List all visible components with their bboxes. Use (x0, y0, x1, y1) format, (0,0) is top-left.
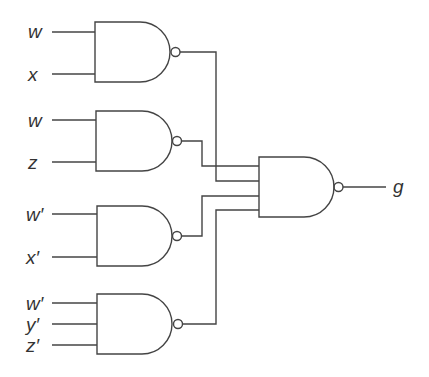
nand-gate-2 (52, 111, 259, 171)
nand-gate-4 (52, 210, 259, 354)
input-label-y-prime: y′ (26, 315, 39, 334)
input-label-w1: w (28, 22, 42, 41)
input-label-z-prime: z′ (26, 336, 39, 355)
input-label-x: x (28, 65, 38, 84)
nand-gate-1 (52, 22, 259, 181)
output-label-g: g (393, 177, 404, 196)
input-label-w-prime-2: w′ (26, 294, 43, 313)
nand-gate-3 (52, 196, 259, 266)
input-label-x-prime: x′ (26, 248, 39, 267)
input-label-z: z (28, 153, 38, 172)
input-label-w-prime-1: w′ (26, 205, 43, 224)
input-label-w2: w (28, 111, 42, 130)
logic-circuit (0, 0, 429, 377)
nand-gate-output (259, 157, 386, 217)
